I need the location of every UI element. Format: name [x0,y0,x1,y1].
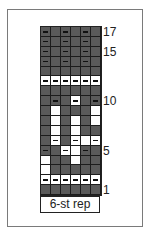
chart-cell [91,156,101,166]
chart-cell [81,146,91,156]
chart-cell [81,106,91,116]
purl-dash-icon [83,179,88,181]
purl-dash-icon [93,140,98,142]
chart-cell [51,136,61,146]
chart-cell [71,57,81,67]
chart-cell [91,106,101,116]
purl-dash-icon [93,100,98,102]
chart-cell [41,27,51,37]
purl-dash-icon [43,61,48,63]
purl-dash-icon [63,150,68,152]
chart-cell [41,86,51,96]
chart-cell [91,57,101,67]
purl-dash-icon [83,61,88,63]
chart-cell [51,175,61,185]
purl-dash-icon [73,100,78,102]
chart-cell [81,96,91,106]
chart-cell [61,67,71,77]
chart-cell [51,126,61,136]
purl-dash-icon [73,179,78,181]
chart-cell [91,76,101,86]
purl-dash-icon [63,80,68,82]
chart-cell [81,37,91,47]
chart-cell [91,165,101,175]
chart-cell [41,165,51,175]
chart-cell [41,37,51,47]
chart-cell [61,27,71,37]
chart-cell [41,175,51,185]
chart-cell [51,146,61,156]
purl-dash-icon [73,80,78,82]
purl-dash-icon [83,31,88,33]
chart-cell [61,175,71,185]
chart-cell [81,47,91,57]
chart-cell [71,185,81,195]
chart-cell [61,136,71,146]
chart-cell [91,27,101,37]
chart-cell [91,175,101,185]
purl-dash-icon [83,51,88,53]
row-number-label: 1 [103,184,110,196]
purl-dash-icon [53,80,58,82]
purl-dash-icon [43,41,48,43]
chart-cell [61,47,71,57]
chart-cell [81,27,91,37]
chart-cell [51,27,61,37]
purl-dash-icon [63,41,68,43]
chart-cell [51,106,61,116]
chart-cell [41,116,51,126]
row-number-label: 10 [103,95,116,107]
chart-cell [51,47,61,57]
purl-dash-icon [53,140,58,142]
chart-cell [81,116,91,126]
chart-cell [61,96,71,106]
chart-cell [91,126,101,136]
chart-cell [71,37,81,47]
chart-cell [71,86,81,96]
purl-dash-icon [93,80,98,82]
chart-cell [61,165,71,175]
chart-cell [91,146,101,156]
chart-cell [91,47,101,57]
chart-cell [61,57,71,67]
chart-cell [71,76,81,86]
purl-dash-icon [53,100,58,102]
purl-dash-icon [43,179,48,181]
row-number-label: 15 [103,46,116,58]
chart-cell [61,185,71,195]
chart-cell [61,37,71,47]
chart-cell [71,175,81,185]
purl-dash-icon [43,51,48,53]
chart-cell [41,136,51,146]
purl-dash-icon [63,51,68,53]
chart-cell [51,185,61,195]
chart-cell [41,156,51,166]
chart-cell [41,47,51,57]
purl-dash-icon [43,150,48,152]
chart-cell [41,146,51,156]
chart-cell [91,67,101,77]
chart-cell [81,165,91,175]
purl-dash-icon [63,31,68,33]
chart-cell [71,136,81,146]
row-number-label: 5 [103,145,110,157]
chart-cell [41,57,51,67]
chart-cell [41,67,51,77]
chart-cell [51,37,61,47]
chart-cell [61,126,71,136]
purl-dash-icon [73,140,78,142]
chart-cell [51,67,61,77]
purl-dash-icon [93,179,98,181]
purl-dash-icon [43,31,48,33]
chart-cell [71,67,81,77]
purl-dash-icon [83,150,88,152]
repeat-label: 6-st rep [40,196,100,213]
purl-dash-icon [53,179,58,181]
chart-cell [41,76,51,86]
purl-dash-icon [83,80,88,82]
purl-dash-icon [63,179,68,181]
chart-cell [81,86,91,96]
chart-cell [61,106,71,116]
chart-cell [81,175,91,185]
purl-dash-icon [43,80,48,82]
